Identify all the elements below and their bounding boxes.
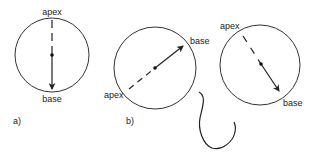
panel-label-a: a) xyxy=(13,116,21,126)
panel-a: apex base a) xyxy=(13,7,89,126)
panel-c: apex base xyxy=(220,21,303,108)
base-label-a: base xyxy=(42,94,62,104)
base-label-c: base xyxy=(283,98,303,108)
dashed-axis-c xyxy=(243,36,261,64)
arrow-b xyxy=(155,46,183,68)
panel-b: base apex b) xyxy=(104,27,210,126)
hook-curve xyxy=(199,92,235,149)
arrow-c xyxy=(261,64,279,91)
apex-label-a: apex xyxy=(42,7,62,17)
center-dot-c xyxy=(259,62,263,66)
apex-label-b: apex xyxy=(104,90,124,100)
apex-label-c: apex xyxy=(220,21,240,31)
dashed-axis-b xyxy=(129,68,155,89)
panel-label-b: b) xyxy=(126,116,134,126)
center-dot-b xyxy=(153,66,157,70)
orientation-diagram: apex base a) base apex b) apex base xyxy=(0,0,316,157)
base-label-b: base xyxy=(190,36,210,46)
center-dot-a xyxy=(50,53,54,57)
